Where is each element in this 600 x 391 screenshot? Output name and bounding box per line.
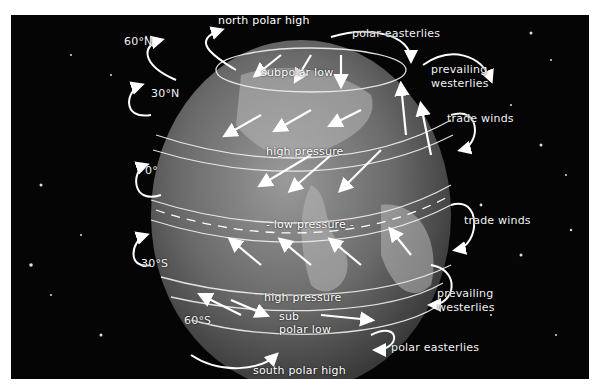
polar-easterlies-south-label: polar easterlies bbox=[391, 342, 479, 354]
prevailing-westerlies-north-label-line2: westerlies bbox=[431, 78, 489, 90]
south-polar-high-label: south polar high bbox=[253, 365, 346, 377]
trade-winds-south-label: trade winds bbox=[464, 215, 531, 227]
latitude-label-30s: 30°S bbox=[141, 258, 168, 270]
polar-easterlies-north-label: polar easterlies bbox=[352, 28, 440, 40]
high-pressure-north-label: high pressure bbox=[266, 146, 344, 158]
latitude-label-equator: 0° bbox=[145, 165, 158, 177]
subpolar-low-north-label: subpolar low bbox=[261, 67, 333, 79]
subpolar-low-south-label-line2: polar low bbox=[279, 324, 331, 336]
prevailing-westerlies-south-label-line2: westerlies bbox=[437, 302, 495, 314]
latitude-label-60n: 60°N bbox=[124, 36, 153, 48]
circulation-diagram: 60°N 30°N 0° 30°S 60°S north polar high … bbox=[11, 15, 589, 379]
high-pressure-south-label: high pressure bbox=[264, 292, 342, 304]
trade-winds-north-label: trade winds bbox=[447, 113, 514, 125]
low-pressure-equator-label: - low pressure - bbox=[266, 219, 354, 231]
subpolar-low-south-label-line1: sub bbox=[279, 311, 299, 323]
prevailing-westerlies-north-label-line1: prevailing bbox=[431, 64, 487, 76]
latitude-label-60s: 60°S bbox=[184, 315, 211, 327]
latitude-label-30n: 30°N bbox=[151, 88, 180, 100]
prevailing-westerlies-south-label-line1: prevailing bbox=[437, 288, 493, 300]
north-polar-high-label: north polar high bbox=[218, 15, 310, 27]
